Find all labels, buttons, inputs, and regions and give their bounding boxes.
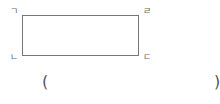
vertex-label-bottom-right: ㄷ: [143, 53, 151, 62]
vertex-label-bottom-left: ㄴ: [10, 53, 18, 62]
vertex-label-top-left: ㄱ: [10, 7, 18, 16]
answer-close-paren: ): [214, 74, 220, 90]
answer-open-paren: (: [42, 74, 48, 90]
answer-blank[interactable]: [60, 74, 210, 90]
rectangle-figure: [22, 15, 139, 56]
vertex-label-top-right: ㄹ: [143, 7, 151, 16]
